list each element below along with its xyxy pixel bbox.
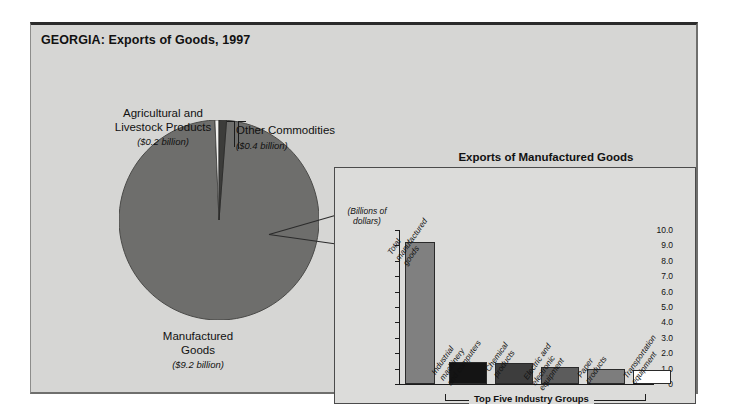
- y-tick-label: 5.0: [639, 302, 673, 312]
- y-tick-label: 8.0: [639, 256, 673, 266]
- figure-root: GEORGIA: Exports of Goods, 1997 Agricult…: [0, 0, 730, 419]
- pie-label-manufactured: Manufactured Goods ($9.2 billion): [123, 330, 273, 372]
- y-tick-label: 6.0: [639, 287, 673, 297]
- y-tick-label: 7.0: [639, 271, 673, 281]
- pie-label-other-commodities: Other Commodities ($0.4 billion): [236, 124, 386, 152]
- pie-label-manufactured-line2: Goods: [181, 344, 215, 356]
- bracket-tick-left: [445, 394, 446, 401]
- figure-panel: GEORGIA: Exports of Goods, 1997 Agricult…: [30, 22, 698, 394]
- bracket-tick-right: [645, 394, 646, 401]
- pie-label-manufactured-line1: Manufactured: [163, 330, 233, 342]
- leader-line-other-horizontal: [238, 121, 246, 122]
- pie-label-other-commodities-line1: Other Commodities: [236, 124, 335, 136]
- y-axis-caption-line1: (Billions of: [347, 206, 386, 216]
- x-axis-line: [399, 384, 654, 385]
- pie-label-agricultural-line1: Agricultural and: [123, 107, 203, 119]
- y-tick-label: 9.0: [639, 240, 673, 250]
- pie-label-agricultural-amount: ($0.2 billion): [83, 135, 243, 149]
- y-tick-label: 4.0: [639, 317, 673, 327]
- bracket-label: Top Five Industry Groups: [469, 393, 594, 404]
- leader-line-other-vertical: [238, 121, 239, 149]
- leader-line-agricultural-vertical: [234, 121, 235, 147]
- y-axis-caption-line2: dollars): [353, 216, 381, 226]
- y-axis-caption: (Billions of dollars): [337, 206, 397, 226]
- pie-label-manufactured-amount: ($9.2 billion): [123, 358, 273, 372]
- bar-chart-plot: 01.02.03.04.05.06.07.08.09.010.0 Totalma…: [361, 230, 673, 398]
- pie-label-agricultural: Agricultural and Livestock Products ($0.…: [83, 107, 243, 149]
- y-tick-label: 10.0: [639, 225, 673, 235]
- pie-label-other-commodities-amount: ($0.4 billion): [236, 139, 386, 153]
- page-title: GEORGIA: Exports of Goods, 1997: [41, 33, 250, 47]
- pie-label-agricultural-line2: Livestock Products: [115, 121, 212, 133]
- inset-title: Exports of Manufactured Goods: [421, 151, 671, 163]
